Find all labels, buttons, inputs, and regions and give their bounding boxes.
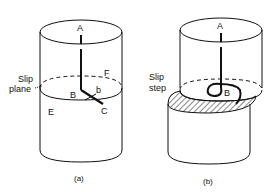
label-E: E — [48, 107, 54, 117]
caption-b: (b) — [203, 177, 213, 186]
slip-step-hatch — [168, 91, 256, 113]
slip-step-label-1: Slip — [149, 72, 164, 82]
label-B-b: B — [224, 88, 230, 98]
label-C: C — [101, 106, 108, 116]
label-b: b — [96, 85, 101, 95]
cylinder-bottom-a — [40, 150, 122, 162]
figure-b — [168, 18, 262, 164]
label-F: F — [104, 68, 110, 78]
caption-a: (a) — [74, 174, 84, 183]
slip-plane-leader-a — [35, 86, 42, 88]
slip-plane-label-1: Slip — [18, 74, 33, 84]
lower-cylinder-bottom-b — [168, 152, 250, 164]
slip-step-label-2: step — [149, 83, 166, 93]
slip-plane-label-2: plane — [9, 84, 31, 94]
label-A-a: A — [77, 23, 83, 33]
dislocation-diagram: A F B b C E Slip plane (a) A B Slip step… — [0, 0, 270, 192]
figure-a — [35, 20, 122, 162]
label-B-a: B — [70, 90, 76, 100]
label-A-b: A — [217, 21, 223, 31]
